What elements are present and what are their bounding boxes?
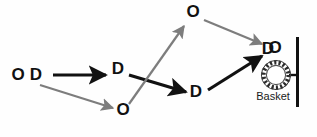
marker-d-wing: D — [112, 59, 124, 78]
marker-d-low: D — [190, 82, 202, 101]
arrow-layer — [40, 20, 262, 108]
diagram-svg: Basket O D D O O D D O — [0, 0, 317, 137]
marker-d-start: D — [30, 65, 42, 84]
arrow-cut-top-to-basket — [204, 20, 262, 44]
arrow-pass-low-to-basket — [208, 56, 262, 90]
arrow-cut-start-to-corner — [40, 85, 113, 108]
marker-o-corner: O — [116, 100, 129, 119]
arrow-cut-corner-to-top — [129, 26, 184, 104]
marker-o-start: O — [11, 65, 24, 84]
marker-o-basket: O — [268, 38, 281, 57]
arrow-pass-wing-to-low — [129, 75, 186, 92]
marker-o-top: O — [186, 2, 199, 21]
basket-hoop-inner-icon — [266, 65, 285, 84]
marker-layer: O D D O O D D O — [11, 2, 281, 119]
basket-label: Basket — [256, 90, 290, 102]
play-diagram-canvas: Basket O D D O O D D O — [0, 0, 317, 137]
